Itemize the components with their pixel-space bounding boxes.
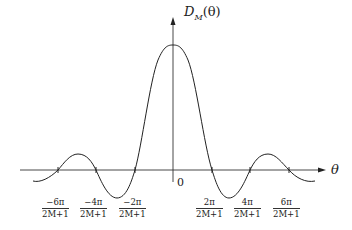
dirichlet-kernel-plot: [0, 0, 352, 230]
tick-label-neg6pi: −6π2M+1: [42, 198, 69, 219]
y-axis-arrow-icon: [171, 17, 176, 25]
tick-label-neg4pi: −4π2M+1: [80, 198, 107, 219]
y-label-sub: M: [194, 13, 202, 22]
origin-label: 0: [177, 176, 184, 189]
tick-label-4pi: 4π2M+1: [234, 198, 261, 219]
y-label-main: D: [184, 4, 194, 19]
x-axis-arrow-icon: [318, 168, 326, 173]
tick-label-2pi: 2π2M+1: [196, 198, 223, 219]
y-label-arg: (θ): [203, 4, 221, 19]
tick-label-6pi: 6π2M+1: [273, 198, 300, 219]
y-axis-label: DM(θ): [184, 4, 221, 22]
dirichlet-curve: [33, 45, 315, 198]
tick-label-neg2pi: −2π2M+1: [119, 198, 146, 219]
x-axis-label: θ: [331, 162, 339, 177]
